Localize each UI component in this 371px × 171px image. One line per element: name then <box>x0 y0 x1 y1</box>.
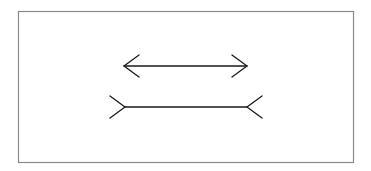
muller-lyer-figure <box>0 0 371 171</box>
diagram-canvas <box>0 0 371 171</box>
figure-frame <box>19 12 354 163</box>
